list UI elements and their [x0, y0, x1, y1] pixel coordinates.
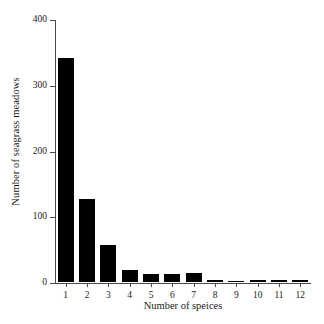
- y-tick: 400: [50, 20, 55, 21]
- y-tick: 300: [50, 86, 55, 87]
- x-axis-line: [55, 283, 311, 284]
- y-tick: 100: [50, 217, 55, 218]
- bar: [228, 281, 244, 282]
- bar: [122, 270, 138, 282]
- x-tick: [215, 283, 216, 287]
- y-axis-label-text: Number of seagrass meadows: [10, 77, 21, 205]
- bar: [186, 273, 202, 282]
- x-tick: [279, 283, 280, 287]
- x-tick: [87, 283, 88, 287]
- x-tick: [66, 283, 67, 287]
- y-tick-label: 300: [33, 79, 47, 92]
- x-tick: [194, 283, 195, 287]
- bar: [250, 280, 266, 282]
- x-tick: [300, 283, 301, 287]
- bar: [271, 280, 287, 282]
- y-tick-label: 400: [33, 13, 47, 26]
- y-tick: 0: [50, 283, 55, 284]
- bar: [164, 274, 180, 282]
- x-tick: [172, 283, 173, 287]
- y-tick-label: 200: [33, 145, 47, 158]
- x-tick: [258, 283, 259, 287]
- bar-chart-figure: Number of seagrass meadows 0100200300400…: [0, 0, 324, 324]
- bar: [292, 280, 308, 282]
- bar: [58, 58, 74, 282]
- x-tick: [130, 283, 131, 287]
- y-tick-label: 100: [33, 210, 47, 223]
- bar: [207, 280, 223, 282]
- bar: [79, 199, 95, 282]
- y-axis-line: [55, 20, 56, 284]
- x-tick: [108, 283, 109, 287]
- x-axis-label: Number of speices: [55, 300, 311, 311]
- x-tick: [236, 283, 237, 287]
- bar: [100, 245, 116, 282]
- plot-area: 0100200300400 123456789101112: [55, 20, 311, 283]
- y-axis-label: Number of seagrass meadows: [6, 0, 24, 283]
- y-tick-label: 0: [42, 276, 47, 289]
- x-tick: [151, 283, 152, 287]
- y-tick: 200: [50, 152, 55, 153]
- bar: [143, 274, 159, 282]
